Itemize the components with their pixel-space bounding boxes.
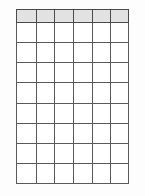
table-cell[interactable] (17, 123, 37, 143)
table-cell[interactable] (74, 103, 93, 123)
table-cell[interactable] (111, 63, 129, 83)
table-cell[interactable] (37, 123, 55, 143)
table-cell[interactable] (37, 83, 55, 103)
table-cell[interactable] (93, 143, 111, 163)
table-cell[interactable] (74, 163, 93, 183)
table-body (17, 10, 129, 184)
table-cell[interactable] (111, 123, 129, 143)
table-cell[interactable] (55, 103, 74, 123)
table-cell[interactable] (17, 163, 37, 183)
table-cell[interactable] (93, 103, 111, 123)
table-cell[interactable] (55, 163, 74, 183)
table-cell[interactable] (74, 143, 93, 163)
table-row (17, 143, 129, 163)
table-cell[interactable] (74, 83, 93, 103)
table-cell[interactable] (111, 83, 129, 103)
table-cell[interactable] (93, 43, 111, 63)
table-cell[interactable] (93, 163, 111, 183)
table-cell[interactable] (111, 163, 129, 183)
table-cell[interactable] (111, 103, 129, 123)
table-cell[interactable] (93, 63, 111, 83)
table-cell[interactable] (74, 123, 93, 143)
table-row (17, 123, 129, 143)
table-header-cell[interactable] (74, 10, 93, 23)
table-cell[interactable] (74, 23, 93, 43)
table-cell[interactable] (37, 163, 55, 183)
table-cell[interactable] (17, 83, 37, 103)
table-cell[interactable] (93, 83, 111, 103)
table-cell[interactable] (17, 143, 37, 163)
table-cell[interactable] (17, 23, 37, 43)
table-cell[interactable] (37, 23, 55, 43)
table-cell[interactable] (74, 43, 93, 63)
table-cell[interactable] (111, 43, 129, 63)
table-cell[interactable] (17, 63, 37, 83)
table-header-row (17, 10, 129, 23)
table-row (17, 83, 129, 103)
table-row (17, 43, 129, 63)
table-row (17, 23, 129, 43)
table-cell[interactable] (55, 83, 74, 103)
table-header-cell[interactable] (93, 10, 111, 23)
table-cell[interactable] (93, 123, 111, 143)
table-row (17, 103, 129, 123)
table-cell[interactable] (17, 43, 37, 63)
table-row (17, 63, 129, 83)
table-cell[interactable] (55, 43, 74, 63)
table-cell[interactable] (111, 143, 129, 163)
table-cell[interactable] (111, 23, 129, 43)
table-cell[interactable] (55, 123, 74, 143)
page-root (0, 0, 145, 196)
table-cell[interactable] (37, 63, 55, 83)
table-header-cell[interactable] (17, 10, 37, 23)
table-cell[interactable] (93, 23, 111, 43)
table-cell[interactable] (55, 63, 74, 83)
table-header-cell[interactable] (37, 10, 55, 23)
table-cell[interactable] (74, 63, 93, 83)
table-header-cell[interactable] (111, 10, 129, 23)
table-cell[interactable] (37, 43, 55, 63)
table-cell[interactable] (37, 143, 55, 163)
table-header-cell[interactable] (55, 10, 74, 23)
table-cell[interactable] (37, 103, 55, 123)
table-cell[interactable] (55, 23, 74, 43)
table-cell[interactable] (17, 103, 37, 123)
table-row (17, 163, 129, 183)
table-cell[interactable] (55, 143, 74, 163)
blank-grid-table (16, 9, 129, 184)
